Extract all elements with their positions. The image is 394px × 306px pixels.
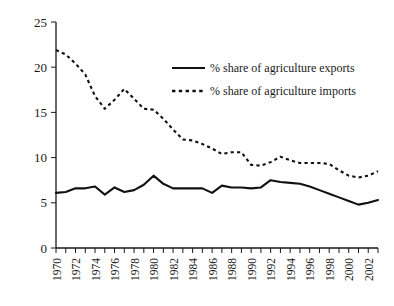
legend-label-imports: % share of agriculture imports — [210, 84, 356, 98]
x-tick-label: 1984 — [187, 258, 199, 281]
x-tick-label: 1978 — [129, 258, 141, 281]
x-tick-label: 1982 — [168, 258, 180, 281]
x-tick-label: 1986 — [207, 258, 219, 281]
y-tick-label: 25 — [34, 15, 47, 30]
y-tick-label: 5 — [41, 195, 48, 210]
x-tick-label: 1994 — [285, 258, 297, 281]
y-tick-label: 15 — [34, 105, 47, 120]
series-line-exports — [56, 176, 378, 205]
chart-legend: % share of agriculture exports % share o… — [172, 61, 356, 98]
x-tick-label: 2002 — [363, 258, 375, 281]
y-tick-label: 20 — [34, 60, 47, 75]
legend-label-exports: % share of agriculture exports — [210, 61, 355, 75]
x-axis-ticks — [56, 248, 378, 253]
y-axis: 0510152025 — [34, 15, 56, 256]
x-axis: 1970197219741976197819801982198419861988… — [51, 248, 379, 281]
line-chart: 0510152025 19701972197419761978198019821… — [0, 0, 394, 306]
y-axis-ticks — [51, 22, 56, 248]
x-tick-label: 1970 — [51, 258, 63, 281]
y-tick-label: 10 — [34, 150, 47, 165]
x-tick-label: 2000 — [343, 258, 355, 281]
x-tick-label: 1992 — [265, 258, 277, 281]
y-tick-label: 0 — [41, 241, 48, 256]
chart-container: 0510152025 19701972197419761978198019821… — [0, 0, 394, 306]
x-tick-label: 1996 — [304, 258, 316, 281]
x-tick-label: 1998 — [324, 258, 336, 281]
y-axis-tick-labels: 0510152025 — [34, 15, 47, 256]
x-tick-label: 1974 — [90, 258, 102, 281]
x-tick-label: 1988 — [226, 258, 238, 281]
x-tick-label: 1972 — [70, 258, 82, 281]
x-axis-tick-labels: 1970197219741976197819801982198419861988… — [51, 258, 375, 281]
x-tick-label: 1976 — [109, 258, 121, 281]
x-tick-label: 1990 — [246, 258, 258, 281]
x-tick-label: 1980 — [148, 258, 160, 281]
